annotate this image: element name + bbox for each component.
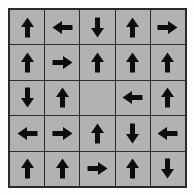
grid-cell-r3c4[interactable] (116, 81, 150, 115)
grid-cell-r3c3[interactable] (80, 81, 114, 115)
grid-cell-r5c3[interactable] (80, 152, 114, 186)
arrow-up-icon (155, 85, 180, 110)
grid-cell-r1c2[interactable] (45, 10, 79, 44)
arrow-left-icon (15, 121, 40, 146)
arrow-left-icon (155, 121, 180, 146)
arrow-up-icon (15, 50, 40, 75)
grid-cell-r4c2[interactable] (45, 116, 79, 150)
grid-cell-r1c5[interactable] (151, 10, 185, 44)
arrow-up-icon (15, 15, 40, 40)
grid-cell-r4c1[interactable] (10, 116, 44, 150)
arrow-down-icon (85, 15, 110, 40)
arrow-down-icon (155, 156, 180, 181)
grid-cell-r4c3[interactable] (80, 116, 114, 150)
grid-cell-r5c2[interactable] (45, 152, 79, 186)
arrow-grid (8, 8, 187, 188)
arrow-right-icon (155, 15, 180, 40)
arrow-right-icon (85, 156, 110, 181)
arrow-up-icon (85, 50, 110, 75)
grid-cell-r2c3[interactable] (80, 45, 114, 79)
arrow-up-icon (120, 50, 145, 75)
arrow-up-icon (85, 121, 110, 146)
arrow-up-icon (155, 50, 180, 75)
arrow-left-icon (120, 85, 145, 110)
arrow-grid-figure (0, 0, 194, 195)
arrow-down-icon (120, 121, 145, 146)
grid-cell-r1c1[interactable] (10, 10, 44, 44)
grid-cell-r1c4[interactable] (116, 10, 150, 44)
arrow-up-icon (120, 156, 145, 181)
grid-cell-r4c5[interactable] (151, 116, 185, 150)
grid-cell-r3c2[interactable] (45, 81, 79, 115)
grid-cell-r3c1[interactable] (10, 81, 44, 115)
grid-cell-r3c5[interactable] (151, 81, 185, 115)
grid-cell-r5c1[interactable] (10, 152, 44, 186)
arrow-right-icon (50, 50, 75, 75)
grid-cell-r2c5[interactable] (151, 45, 185, 79)
arrow-up-icon (50, 156, 75, 181)
grid-cell-r4c4[interactable] (116, 116, 150, 150)
grid-cell-r1c3[interactable] (80, 10, 114, 44)
grid-cell-r5c4[interactable] (116, 152, 150, 186)
grid-cell-r5c5[interactable] (151, 152, 185, 186)
grid-cell-r2c2[interactable] (45, 45, 79, 79)
grid-cell-r2c1[interactable] (10, 45, 44, 79)
arrow-down-icon (15, 85, 40, 110)
grid-cell-r2c4[interactable] (116, 45, 150, 79)
arrow-up-icon (120, 15, 145, 40)
arrow-right-icon (50, 121, 75, 146)
arrow-up-icon (50, 85, 75, 110)
arrow-left-icon (50, 15, 75, 40)
arrow-up-icon (15, 156, 40, 181)
